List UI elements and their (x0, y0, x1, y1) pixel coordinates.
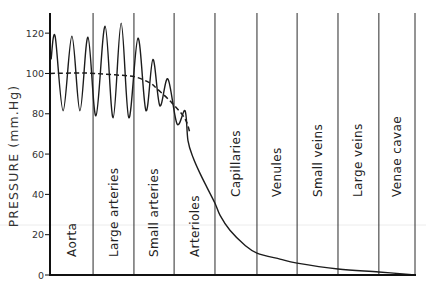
y-tick-label: 80 (32, 108, 44, 119)
blood-pressure-chart: AortaLarge arteriesSmall arteriesArterio… (0, 0, 426, 289)
y-tick-label: 120 (26, 28, 44, 39)
region-label-small-arteries: Small arteries (147, 168, 161, 257)
region-label-arterioles: Arterioles (188, 195, 202, 257)
y-tick-label: 100 (26, 68, 44, 79)
region-label-venae-cavae: Venae cavae (390, 116, 404, 197)
region-label-aorta: Aorta (65, 223, 79, 257)
y-axis-ticks: 020406080100120 (26, 28, 50, 281)
region-label-venules: Venules (270, 147, 284, 197)
y-tick-label: 60 (32, 149, 44, 160)
y-tick-label: 20 (32, 229, 44, 240)
region-label-capillaries: Capillaries (229, 130, 243, 197)
y-axis-label: PRESSURE (mm.Hg) (6, 85, 21, 228)
region-label-large-arteries: Large arteries (107, 168, 121, 257)
region-dividers (93, 13, 415, 275)
region-label-large-veins: Large veins (351, 123, 365, 197)
y-tick-label: 40 (32, 189, 44, 200)
y-tick-label: 0 (38, 270, 44, 281)
region-label-small-veins: Small veins (311, 124, 325, 197)
